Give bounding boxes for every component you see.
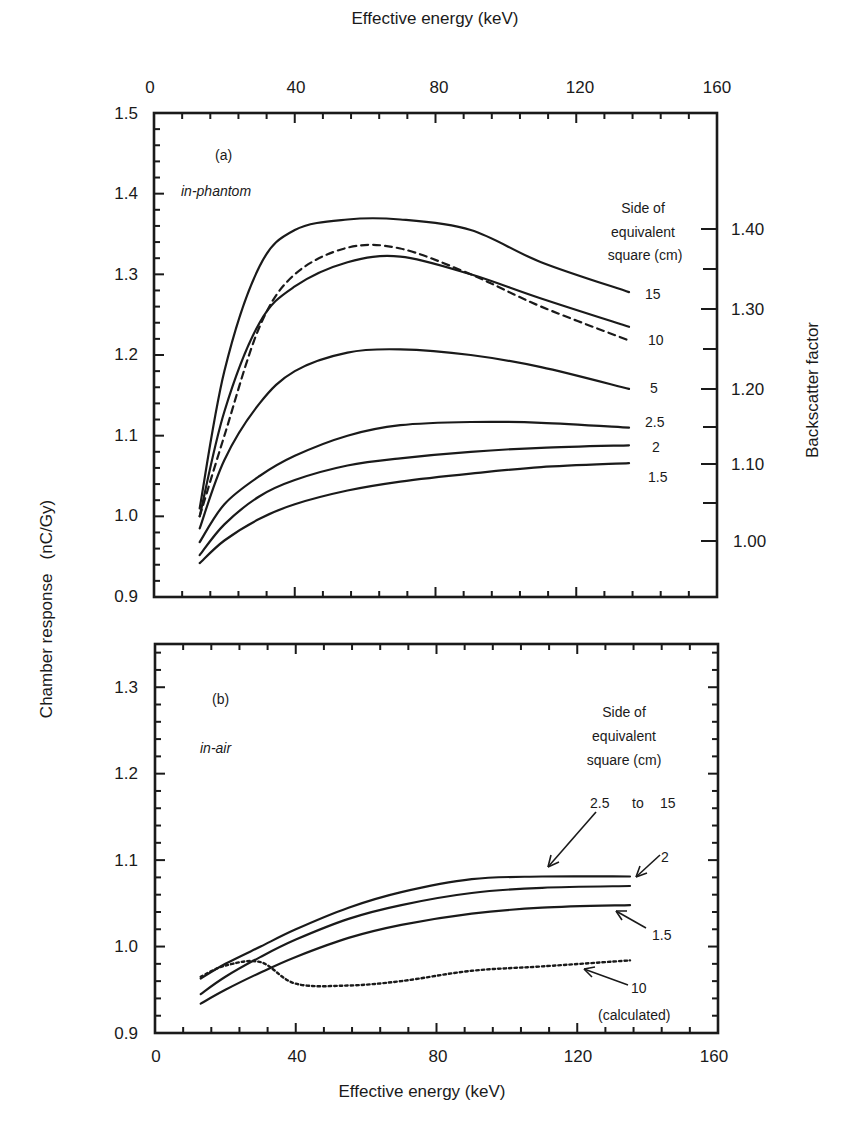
panel-b-frame (155, 644, 718, 1033)
series-line (200, 445, 629, 555)
x-tick-label: 40 (288, 1047, 307, 1066)
y2-tick-label: 1.00 (733, 532, 766, 551)
series-line (201, 960, 630, 986)
y-tick-label: 1.5 (114, 104, 138, 123)
label-range-from: 2.5 (590, 795, 610, 811)
y-tick-label: 1.2 (114, 345, 138, 364)
arrow-icon (548, 812, 596, 867)
curve-label-2-5: 2.5 (645, 414, 665, 430)
annotation-arrows (548, 812, 660, 985)
y-tick-label: 1.3 (114, 265, 138, 284)
svg-text:equivalent: equivalent (611, 224, 675, 240)
series-line (200, 422, 629, 542)
y2-tick-label: 1.40 (731, 220, 764, 239)
curve-label-15: 15 (645, 286, 661, 302)
curve-label-1-5: 1.5 (648, 469, 668, 485)
x-tick-label: 120 (566, 78, 594, 97)
label-one-five: 1.5 (652, 927, 672, 943)
y-tick-label: 1.3 (114, 678, 138, 697)
label-ten: 10 (631, 980, 647, 996)
series-line (201, 886, 630, 994)
panel-b-ticks (155, 644, 718, 1033)
x-tick-label: 160 (700, 1047, 728, 1066)
svg-text:Side of: Side of (602, 704, 646, 720)
panel-b-curves (201, 876, 630, 1003)
y2-tick-label: 1.10 (731, 455, 764, 474)
figure-canvas: Effective energy (keV) 0 40 80 120 160 1… (0, 0, 865, 1146)
y-tick-label: 1.0 (114, 937, 138, 956)
panel-a-legend-title: Side of equivalent square (cm) (608, 200, 683, 263)
x-tick-label: 0 (145, 78, 154, 97)
top-axis-title: Effective energy (keV) (352, 9, 519, 28)
panel-b-legend-title: Side of equivalent square (cm) (587, 704, 662, 768)
arrow-icon (584, 969, 628, 985)
panel-a-subtitle: in-phantom (181, 183, 251, 199)
label-range-to: 15 (660, 795, 676, 811)
x-tick-label: 0 (151, 1047, 160, 1066)
right-axis-title: Backscatter factor (803, 322, 822, 458)
label-calculated: (calculated) (598, 1007, 670, 1023)
y-tick-label: 0.9 (114, 587, 138, 606)
y-tick-label: 0.9 (114, 1024, 138, 1043)
x-tick-label: 40 (287, 78, 306, 97)
panel-a-curves (200, 218, 629, 563)
y-tick-label: 1.1 (114, 426, 138, 445)
label-two: 2 (661, 849, 669, 865)
y-tick-label: 1.1 (114, 851, 138, 870)
panel-b-label: (b) (212, 691, 229, 707)
curve-label-5: 5 (650, 380, 658, 396)
panel-a-right-ticks (701, 229, 717, 541)
series-line (200, 256, 629, 516)
curve-label-10: 10 (648, 332, 664, 348)
panel-b: 1.3 1.2 1.1 1.0 0.9 0 40 80 120 160 Effe… (114, 644, 728, 1101)
top-x-tick-labels: 0 40 80 120 160 (145, 78, 731, 97)
x-tick-label: 120 (564, 1047, 592, 1066)
x-tick-label: 160 (703, 78, 731, 97)
x-tick-label: 80 (429, 1047, 448, 1066)
arrow-icon (616, 911, 646, 928)
y-tick-label: 1.2 (114, 764, 138, 783)
panel-b-subtitle: in-air (200, 740, 232, 756)
series-line (200, 349, 629, 528)
x-tick-label: 80 (430, 78, 449, 97)
label-range-to-word: to (632, 795, 644, 811)
panel-a-label: (a) (215, 147, 232, 163)
svg-text:equivalent: equivalent (592, 728, 656, 744)
series-line (200, 463, 629, 563)
bottom-axis-title: Effective energy (keV) (339, 1082, 506, 1101)
left-axis-title: Chamber response (nC/Gy) (37, 500, 56, 718)
y2-tick-label: 1.20 (731, 380, 764, 399)
y-tick-label: 1.4 (114, 184, 138, 203)
y2-tick-label: 1.30 (731, 300, 764, 319)
y-tick-label: 1.0 (114, 506, 138, 525)
svg-text:square (cm): square (cm) (587, 752, 662, 768)
curve-label-2: 2 (652, 439, 660, 455)
svg-text:square (cm): square (cm) (608, 247, 683, 263)
svg-text:Side of: Side of (621, 200, 665, 216)
panel-a: 1.5 1.4 1.3 1.2 1.1 1.0 0.9 1.40 1.30 1.… (114, 104, 822, 606)
series-line (200, 245, 629, 516)
